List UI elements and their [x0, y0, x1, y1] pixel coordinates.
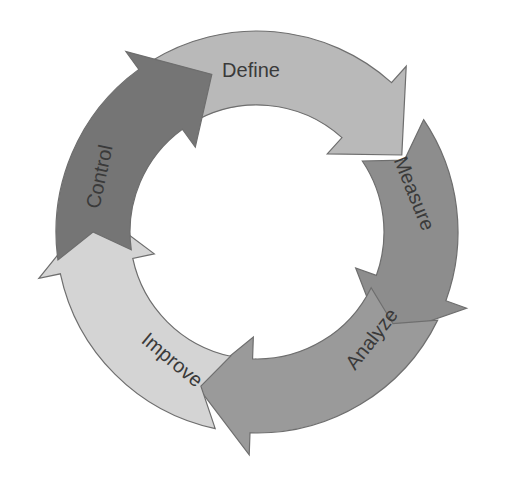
cycle-segments [39, 31, 467, 455]
dmaic-cycle-diagram: Define Measure Analyze Improve Control [0, 0, 521, 493]
step-label-define: Define [222, 59, 280, 81]
cycle-arrow-control [56, 52, 212, 260]
